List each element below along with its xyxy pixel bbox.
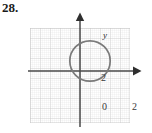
y-axis-label: y bbox=[103, 31, 107, 40]
x-axis bbox=[28, 67, 142, 76]
y-axis bbox=[76, 13, 84, 128]
graph-plate: y x 0 2 2 bbox=[30, 28, 130, 123]
figure-root: 28. bbox=[0, 0, 152, 133]
tick-label-x-2: 2 bbox=[132, 102, 137, 112]
tick-label-y-2: 2 bbox=[101, 73, 106, 83]
axes-and-curve bbox=[0, 0, 152, 133]
tick-label-origin: 0 bbox=[102, 102, 107, 112]
